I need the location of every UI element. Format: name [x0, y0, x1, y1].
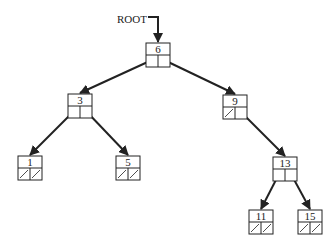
- tree-node-15: 15: [298, 210, 322, 234]
- node-value: 1: [27, 156, 33, 168]
- tree-node-5: 5: [116, 156, 140, 180]
- tree-node-3: 3: [68, 94, 92, 118]
- node-value: 6: [155, 43, 161, 55]
- edge-3-to-1: [30, 111, 74, 155]
- node-value: 15: [305, 210, 317, 222]
- tree-node-1: 1: [18, 156, 42, 180]
- tree-nodes: 63915131115: [18, 43, 322, 234]
- node-value: 11: [256, 210, 267, 222]
- edge-6-to-9: [164, 60, 235, 94]
- root-label: ROOT: [117, 13, 147, 25]
- tree-node-6: 6: [146, 43, 170, 67]
- tree-node-13: 13: [273, 157, 297, 181]
- node-value: 13: [280, 157, 292, 169]
- tree-diagram: ROOT 63915131115: [0, 0, 334, 248]
- tree-node-9: 9: [223, 95, 247, 119]
- tree-node-11: 11: [249, 210, 273, 234]
- node-value: 5: [125, 156, 131, 168]
- tree-edges: [30, 60, 310, 209]
- node-value: 3: [77, 94, 83, 106]
- node-value: 9: [232, 95, 238, 107]
- edge-9-to-13: [241, 112, 285, 156]
- root-pointer-arrow: [148, 17, 158, 42]
- edge-6-to-3: [80, 60, 152, 93]
